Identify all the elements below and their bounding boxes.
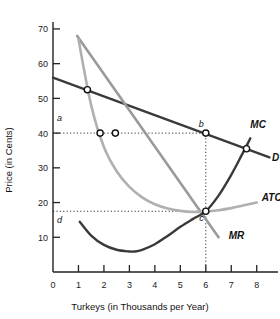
- y-tick-label: 60: [38, 59, 48, 69]
- marker-label-b: b: [199, 119, 204, 129]
- x-tick-label: 0: [50, 280, 55, 290]
- x-tick-label: 6: [203, 280, 208, 290]
- x-tick-label: 8: [254, 280, 259, 290]
- curve-label-atc: ATC: [261, 192, 280, 203]
- x-tick-label: 4: [152, 280, 157, 290]
- x-tick-label: 7: [229, 280, 234, 290]
- atc-at-price-a: [112, 130, 118, 136]
- price-level-d: d: [57, 215, 63, 225]
- curves-group: [53, 36, 269, 252]
- curve-atc: [78, 39, 256, 212]
- y-tick-label: 10: [38, 233, 48, 243]
- point-b: [203, 130, 209, 136]
- curve-label-d: D: [272, 152, 279, 163]
- price-level-a: a: [57, 113, 62, 123]
- x-tick-label: 3: [127, 280, 132, 290]
- y-tick-label: 20: [38, 198, 48, 208]
- y-tick-label: 70: [38, 24, 48, 34]
- text-labels-group: 10203040506070012345678bcadMCDATCMR: [38, 24, 280, 290]
- curve-mr: [77, 36, 218, 237]
- y-axis-title: Price (in Cents): [3, 127, 14, 192]
- x-tick-label: 1: [76, 280, 81, 290]
- x-tick-label: 5: [178, 280, 183, 290]
- monopoly-cost-revenue-chart: 10203040506070012345678bcadMCDATCMR Turk…: [0, 0, 280, 319]
- x-tick-label: 2: [101, 280, 106, 290]
- y-tick-label: 30: [38, 163, 48, 173]
- curve-label-mr: MR: [229, 230, 245, 241]
- mr-at-price-a: [97, 130, 103, 136]
- y-tick-label: 50: [38, 94, 48, 104]
- marker-label-c: c: [199, 213, 204, 223]
- curve-label-mc: MC: [250, 119, 266, 130]
- chart-canvas: 10203040506070012345678bcadMCDATCMR Turk…: [0, 0, 280, 319]
- data-point-markers-group: [84, 87, 249, 215]
- x-axis-title: Turkeys (in Thousands per Year): [71, 301, 208, 312]
- curve-mc: [80, 138, 251, 251]
- demand-upper-point: [84, 87, 90, 93]
- mc-demand-intersection: [243, 146, 249, 152]
- y-tick-label: 40: [38, 129, 48, 139]
